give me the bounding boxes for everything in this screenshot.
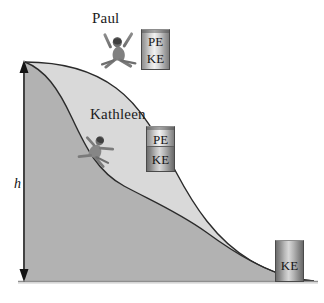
meter-label-pe: PE — [147, 133, 174, 146]
person-label-kathleen: Kathleen — [90, 106, 146, 123]
height-label: h — [14, 176, 21, 192]
person-label-paul: Paul — [92, 10, 119, 27]
energy-slope-figure: Paul Kathleen h PE KE PE KE KE — [0, 0, 324, 303]
figure-paul — [102, 34, 135, 67]
energy-meter-bottom: KE — [275, 240, 304, 282]
meter-rim — [142, 30, 169, 33]
meter-label-pe: PE — [142, 35, 169, 48]
meter-rim — [147, 127, 174, 130]
meter-label-ke: KE — [276, 259, 303, 272]
energy-meter-paul: PE KE — [141, 29, 170, 70]
meter-label-ke: KE — [142, 52, 169, 65]
meter-label-ke: KE — [147, 153, 174, 166]
energy-meter-kathleen: PE KE — [146, 126, 175, 172]
